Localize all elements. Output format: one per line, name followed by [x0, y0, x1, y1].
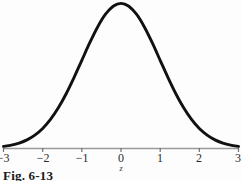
x-tick-label-pos3: 3: [226, 151, 242, 165]
x-axis-variable-label: z: [111, 164, 131, 173]
x-tick-label-neg2: −2: [31, 151, 55, 165]
figure-standard-normal-curve: −3 −2 −1 0 1 2 3 z Fig. 6-13: [0, 0, 242, 181]
normal-curve-svg: [0, 0, 242, 152]
x-tick-label-pos1: 1: [148, 151, 172, 165]
figure-caption: Fig. 6-13: [3, 168, 53, 181]
normal-density-curve: [4, 3, 239, 146]
x-tick-label-neg3: −3: [0, 151, 15, 165]
plot-area: [0, 0, 242, 152]
x-tick-label-zero: 0: [109, 151, 133, 165]
x-tick-label-neg1: −1: [70, 151, 94, 165]
x-tick-label-pos2: 2: [187, 151, 211, 165]
